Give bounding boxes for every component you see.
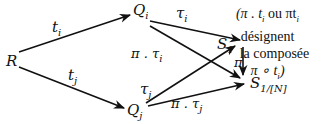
arrow-ti [19,15,130,52]
label-tj: tj [68,68,77,86]
node-Qi: Qi [133,3,149,21]
node-Qj: Qj [127,103,142,121]
label-ti: ti [52,20,61,38]
label-pi-tau-j: π . τj [171,97,202,114]
label-tau-i: τi [176,6,188,24]
label-tau-j: τj [140,82,151,100]
node-R: R [6,54,17,69]
annotation-text: (π . ti ou πti désignent la composée π ∘… [210,5,325,85]
label-pi-tau-i: π . τi [131,47,162,64]
